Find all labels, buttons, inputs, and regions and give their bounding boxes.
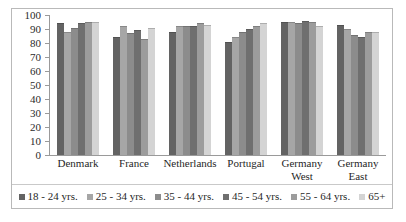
- bar[interactable]: [302, 21, 309, 155]
- legend-label: 35 - 44 yrs.: [164, 191, 214, 202]
- bar[interactable]: [120, 26, 127, 155]
- x-axis-label-line: Germany: [274, 157, 330, 170]
- bar[interactable]: [337, 25, 344, 155]
- bar[interactable]: [71, 28, 78, 155]
- y-axis-tick-label: 70: [30, 52, 41, 63]
- y-axis-tick-label: 100: [25, 10, 42, 21]
- y-axis-tick-label: 40: [30, 94, 41, 105]
- legend-item[interactable]: 45 - 54 yrs.: [223, 191, 282, 202]
- legend-item[interactable]: 25 - 34 yrs.: [87, 191, 146, 202]
- y-axis: 1009080706050403020100: [12, 15, 45, 155]
- legend-item[interactable]: 18 - 24 yrs.: [19, 191, 78, 202]
- plot-wrapper: 1009080706050403020100: [12, 9, 392, 167]
- bar[interactable]: [204, 25, 211, 155]
- bar[interactable]: [64, 32, 71, 155]
- bar[interactable]: [113, 37, 120, 155]
- x-axis-label-line: Netherlands: [162, 157, 218, 170]
- legend-swatch-icon: [291, 194, 297, 200]
- legend-swatch-icon: [19, 194, 25, 200]
- legend-label: 65+: [368, 191, 385, 202]
- legend-swatch-icon: [359, 194, 365, 200]
- chart-legend: 18 - 24 yrs.25 - 34 yrs.35 - 44 yrs.45 -…: [12, 184, 392, 204]
- legend-label: 45 - 54 yrs.: [232, 191, 282, 202]
- x-axis-label-line: Portugal: [218, 157, 274, 170]
- bar[interactable]: [260, 23, 267, 155]
- legend-swatch-icon: [155, 194, 161, 200]
- x-axis-label-line: Denmark: [50, 157, 106, 170]
- legend-swatch-icon: [87, 194, 93, 200]
- x-axis-label-line: East: [330, 170, 386, 183]
- y-axis-tick-label: 60: [30, 66, 41, 77]
- bar[interactable]: [141, 39, 148, 155]
- bar[interactable]: [232, 37, 239, 155]
- x-axis-label-line: West: [274, 170, 330, 183]
- legend-label: 25 - 34 yrs.: [96, 191, 146, 202]
- bar[interactable]: [127, 33, 134, 155]
- bar-group: [57, 15, 99, 155]
- bar-group: [281, 15, 323, 155]
- bar[interactable]: [169, 32, 176, 155]
- legend-item[interactable]: 35 - 44 yrs.: [155, 191, 214, 202]
- y-axis-tick-label: 50: [30, 80, 41, 91]
- bar[interactable]: [372, 32, 379, 155]
- bar[interactable]: [281, 22, 288, 155]
- bar[interactable]: [288, 22, 295, 155]
- y-axis-tick-label: 20: [30, 122, 41, 133]
- legend-item[interactable]: 65+: [359, 191, 385, 202]
- bar-group: [169, 15, 211, 155]
- plot-area: [49, 15, 386, 156]
- bar[interactable]: [134, 30, 141, 155]
- bar[interactable]: [309, 22, 316, 155]
- bar[interactable]: [351, 35, 358, 155]
- x-axis-label-line: France: [106, 157, 162, 170]
- bar[interactable]: [344, 29, 351, 155]
- y-axis-tick-label: 10: [30, 136, 41, 147]
- bar[interactable]: [176, 26, 183, 155]
- bar[interactable]: [183, 26, 190, 155]
- bar[interactable]: [358, 37, 365, 155]
- legend-label: 18 - 24 yrs.: [28, 191, 78, 202]
- y-axis-tick-label: 80: [30, 38, 41, 49]
- legend-swatch-icon: [223, 194, 229, 200]
- y-axis-tick-label: 90: [30, 24, 41, 35]
- bar[interactable]: [197, 23, 204, 155]
- bars-layer: [50, 15, 386, 155]
- bar[interactable]: [295, 23, 302, 155]
- bar[interactable]: [148, 28, 155, 155]
- y-axis-tick-label: 30: [30, 108, 41, 119]
- legend-label: 55 - 64 yrs.: [300, 191, 350, 202]
- bar[interactable]: [253, 26, 260, 155]
- bar-group: [337, 15, 379, 155]
- chart-container: 1009080706050403020100 DenmarkFranceNeth…: [11, 8, 393, 209]
- bar[interactable]: [57, 23, 64, 155]
- bar[interactable]: [92, 22, 99, 155]
- bar[interactable]: [239, 32, 246, 155]
- legend-item[interactable]: 55 - 64 yrs.: [291, 191, 350, 202]
- bar[interactable]: [225, 42, 232, 155]
- y-axis-tick-label: 0: [36, 150, 42, 161]
- bar[interactable]: [85, 22, 92, 155]
- bar[interactable]: [365, 32, 372, 155]
- bar[interactable]: [190, 26, 197, 155]
- bar-group: [225, 15, 267, 155]
- bar[interactable]: [78, 23, 85, 155]
- x-axis-label-line: Germany: [330, 157, 386, 170]
- bar[interactable]: [246, 29, 253, 155]
- bar-group: [113, 15, 155, 155]
- bar[interactable]: [316, 26, 323, 155]
